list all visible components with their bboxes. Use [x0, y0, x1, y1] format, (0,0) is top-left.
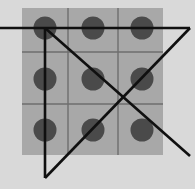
figure-canvas — [0, 0, 195, 189]
figure-root — [0, 0, 195, 189]
